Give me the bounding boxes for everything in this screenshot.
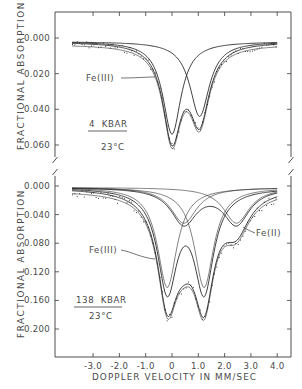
fe2-line1-curve (72, 188, 277, 223)
x-tick-label: -3.0 (84, 361, 102, 371)
x-tick-label: 3.0 (244, 361, 259, 371)
x-tick-label: -1.0 (137, 361, 155, 371)
axis-labels: -3.0-2.0-1.001.02.03.04.00.0000.0200.040… (24, 33, 285, 371)
x-tick-label: 1.0 (191, 361, 206, 371)
bottom-y-axis-label: FRACTIONAL ABSORPTION (16, 189, 26, 338)
bottom-fe3-leader (121, 250, 155, 259)
y-tick-label: 0.040 (24, 210, 50, 220)
axis-ticks (55, 12, 291, 357)
y-tick-label: 0.200 (24, 324, 50, 334)
fe2-line2-curve (72, 188, 277, 223)
bottom-fe3-label: Fe(III) (89, 245, 117, 255)
x-axis-label: DOPPLER VELOCITY IN MM/SEC (92, 372, 257, 382)
top-temperature-label: 23°C (101, 142, 125, 152)
bottom-temperature-label: 23°C (89, 311, 113, 321)
y-tick-label: 0.060 (24, 140, 50, 150)
plot-frame (53, 12, 294, 357)
top-fe3-leader (121, 77, 155, 78)
y-tick-label: 0.020 (24, 69, 50, 79)
axis-break-mark (289, 169, 294, 175)
top-panel-curves (72, 42, 277, 148)
top-pressure-label: 4 KBAR (89, 119, 128, 129)
x-tick-label: 4.0 (270, 361, 285, 371)
y-tick-label: 0.040 (24, 104, 50, 114)
y-tick-label: 0.000 (24, 181, 50, 191)
top-fe3-label: Fe(III) (86, 73, 114, 83)
fe3-doublet-curve (72, 190, 277, 297)
axis-break-mark (53, 157, 58, 163)
top-panel-frame (55, 12, 291, 157)
x-tick-label: -2.0 (110, 361, 128, 371)
y-tick-label: 0.000 (24, 33, 50, 43)
x-tick-label: 2.0 (217, 361, 232, 371)
axis-break-mark (53, 169, 58, 175)
y-tick-label: 0.160 (24, 295, 50, 305)
x-tick-label: 0 (169, 361, 175, 371)
y-tick-label: 0.120 (24, 267, 50, 277)
mossbauer-spectra-figure: -3.0-2.0-1.001.02.03.04.00.0000.0200.040… (0, 0, 302, 389)
y-tick-label: 0.080 (24, 238, 50, 248)
sum-fit-envelope (72, 46, 277, 149)
top-y-axis-label: FRACTIONAL ABSORPTION (16, 1, 26, 150)
bottom-pressure-label: 138 KBAR (76, 295, 127, 305)
bottom-fe2-label: Fe(II) (256, 228, 281, 238)
data-points (72, 42, 276, 322)
axis-break-mark (289, 157, 294, 163)
